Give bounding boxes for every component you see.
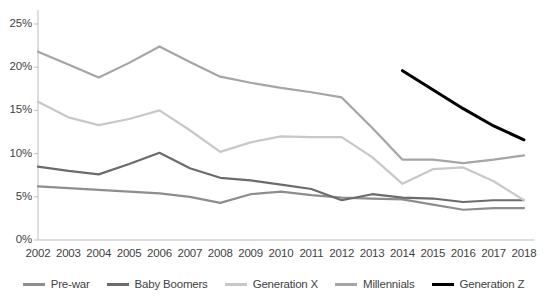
legend-item[interactable]: Generation X <box>225 278 318 290</box>
legend-label: Millennials <box>363 278 415 290</box>
plot-area: 0%5%10%15%20%25%200220032004200520062007… <box>0 0 547 262</box>
x-axis-tick-label: 2018 <box>504 247 544 259</box>
legend-swatch-icon <box>432 283 454 286</box>
legend-item[interactable]: Pre-war <box>23 278 90 290</box>
legend-item[interactable]: Millennials <box>335 278 415 290</box>
y-axis-tick-label: 25% <box>0 17 32 29</box>
legend-swatch-icon <box>107 283 129 286</box>
y-axis-tick-label: 15% <box>0 103 32 115</box>
legend-item[interactable]: Generation Z <box>432 278 525 290</box>
legend-label: Generation Z <box>460 278 525 290</box>
y-axis-tick-label: 0% <box>0 233 32 245</box>
y-axis-tick-label: 5% <box>0 190 32 202</box>
line-chart: 0%5%10%15%20%25%200220032004200520062007… <box>0 0 547 307</box>
legend-label: Generation X <box>253 278 318 290</box>
series-line-millennials <box>38 46 524 163</box>
legend-label: Baby Boomers <box>135 278 208 290</box>
series-line-generation-z <box>403 71 525 140</box>
legend-item[interactable]: Baby Boomers <box>107 278 208 290</box>
legend-label: Pre-war <box>51 278 90 290</box>
y-axis-tick-label: 10% <box>0 147 32 159</box>
chart-svg <box>0 0 547 262</box>
legend-swatch-icon <box>225 283 247 286</box>
series-line-baby-boomers <box>38 153 524 202</box>
chart-legend: Pre-warBaby BoomersGeneration XMillennia… <box>0 278 547 290</box>
series-line-pre-war <box>38 186 524 209</box>
legend-swatch-icon <box>335 283 357 286</box>
y-axis-tick-label: 20% <box>0 60 32 72</box>
legend-swatch-icon <box>23 283 45 286</box>
